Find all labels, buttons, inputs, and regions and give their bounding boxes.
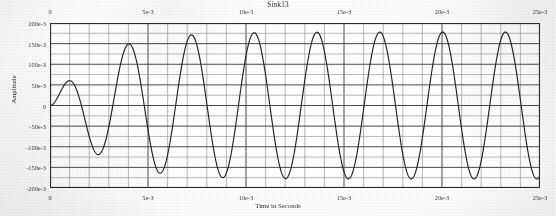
plot-grid-and-trace bbox=[50, 23, 540, 188]
y-tick-3: 50e-3 bbox=[31, 81, 46, 88]
chart-title: Sink13 bbox=[0, 1, 556, 9]
x-tick-bottom-0: 0 bbox=[48, 194, 51, 201]
x-tick-top-2: 10e-3 bbox=[239, 8, 254, 15]
x-tick-bottom-4: 20e-3 bbox=[435, 194, 450, 201]
plot-area bbox=[50, 23, 540, 188]
y-axis-label: Amplitude bbox=[10, 55, 17, 125]
x-tick-bottom-3: 15e-3 bbox=[337, 194, 352, 201]
x-axis-label: Time in Seconds bbox=[0, 202, 556, 209]
x-tick-top-5: 25e-3 bbox=[533, 8, 548, 15]
plot-figure: Sink13 05e-310e-315e-320e-325e-3 05e-310… bbox=[0, 0, 556, 216]
y-tick-5: -50e-3 bbox=[29, 123, 46, 130]
x-tick-top-0: 0 bbox=[48, 8, 51, 15]
y-tick-7: -150e-3 bbox=[26, 164, 46, 171]
x-tick-top-1: 5e-3 bbox=[142, 8, 153, 15]
y-tick-2: 100e-3 bbox=[28, 61, 46, 68]
y-tick-0: 200e-3 bbox=[28, 20, 46, 27]
y-tick-4: 0 bbox=[43, 102, 46, 109]
x-tick-top-4: 20e-3 bbox=[435, 8, 450, 15]
y-tick-6: -100e-3 bbox=[26, 143, 46, 150]
x-tick-top-3: 15e-3 bbox=[337, 8, 352, 15]
x-tick-bottom-5: 25e-3 bbox=[533, 194, 548, 201]
y-tick-8: -200e-3 bbox=[26, 185, 46, 192]
x-tick-bottom-1: 5e-3 bbox=[142, 194, 153, 201]
x-tick-bottom-2: 10e-3 bbox=[239, 194, 254, 201]
y-tick-1: 150e-3 bbox=[28, 40, 46, 47]
